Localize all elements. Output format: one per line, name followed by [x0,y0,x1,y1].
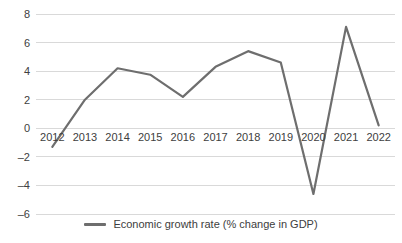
chart-legend: Economic growth rate (% change in GDP) [0,218,402,230]
x-axis-tick-label: 2021 [334,132,358,143]
x-axis-tick-label: 2016 [171,132,195,143]
y-axis-tick-label: –4 [0,180,30,191]
x-axis-tick-label: 2017 [203,132,227,143]
x-axis-tick-label: 2014 [105,132,129,143]
x-axis-tick-label: 2022 [366,132,390,143]
economic-growth-line-chart: 86420–2–4–6 2012201320142015201620172018… [0,0,402,243]
x-axis-tick-label: 2018 [236,132,260,143]
x-axis-tick-label: 2012 [40,132,64,143]
legend-item-label: Economic growth rate (% change in GDP) [113,218,317,230]
y-axis-tick-label: 0 [0,123,30,134]
x-axis-tick-label: 2015 [138,132,162,143]
y-axis-tick-label: 2 [0,94,30,105]
legend-line-swatch [84,223,106,226]
x-axis-tick-label: 2013 [73,132,97,143]
x-axis-tick-label: 2020 [301,132,325,143]
chart-plot-area [0,0,402,243]
series-line [52,27,378,194]
series-group [52,27,378,194]
y-axis-tick-label: –2 [0,151,30,162]
gridline-group [36,14,395,214]
y-axis-tick-label: 8 [0,9,30,20]
y-axis-tick-label: 6 [0,37,30,48]
y-axis-tick-label: 4 [0,66,30,77]
x-axis-tick-label: 2019 [269,132,293,143]
